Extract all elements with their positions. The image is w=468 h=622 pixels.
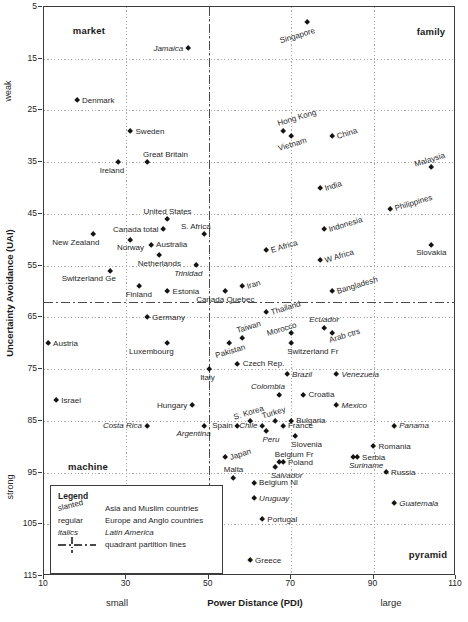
y-tick-label-45: 45 <box>15 208 37 218</box>
point-marker <box>428 164 434 170</box>
point-marker <box>206 366 212 372</box>
point-marker <box>263 428 269 434</box>
point-label-croatia: Croatia <box>309 390 335 399</box>
point-label-s-africa: S. Africa <box>181 222 211 231</box>
point-marker <box>280 423 286 429</box>
point-marker <box>387 206 393 212</box>
point-marker <box>115 159 121 165</box>
point-marker <box>272 464 278 470</box>
point-marker <box>300 392 306 398</box>
point-marker <box>383 469 389 475</box>
point-marker <box>370 444 376 450</box>
y-tick-label-75: 75 <box>15 363 37 373</box>
y-tick-105 <box>38 523 42 524</box>
y-tick-label-65: 65 <box>15 311 37 321</box>
x-tick-label-110: 110 <box>448 578 462 588</box>
y-gridline-65 <box>44 317 454 318</box>
point-marker <box>329 288 335 294</box>
point-marker <box>230 475 236 481</box>
point-label-denmark: Denmark <box>82 96 114 105</box>
point-marker <box>317 185 323 191</box>
point-label-morocco: Morocco <box>265 321 297 339</box>
point-marker <box>239 335 245 341</box>
x-tick-label-70: 70 <box>285 578 294 588</box>
point-label-france: France <box>288 421 313 430</box>
point-label-iran: Iran <box>245 278 261 291</box>
point-marker <box>276 392 282 398</box>
point-marker <box>222 288 228 294</box>
point-marker <box>222 454 228 460</box>
y-tick-label-25: 25 <box>15 104 37 114</box>
point-label-venezuela: Venezuela <box>342 370 380 379</box>
legend-key-italics: italics <box>58 528 96 537</box>
point-marker <box>164 340 170 346</box>
point-marker <box>90 231 96 237</box>
point-label-russia: Russia <box>391 468 415 477</box>
plot-area: market family machine pyramid Legend sla… <box>43 6 455 575</box>
point-marker <box>127 128 133 134</box>
point-label-brazil: Brazil <box>292 370 312 379</box>
point-label-australia: Australia <box>156 240 187 249</box>
y-tick-65 <box>38 316 42 317</box>
y-tick-label-5: 5 <box>15 1 37 11</box>
y-tick-label-115: 115 <box>15 570 37 580</box>
point-marker <box>107 268 113 274</box>
point-label-china: China <box>336 126 359 141</box>
point-label-switzerland-fr: Switzerland Fr <box>287 347 338 356</box>
point-marker <box>272 418 278 424</box>
y-gridline-45 <box>44 214 454 215</box>
point-marker <box>160 226 166 232</box>
y-tick-label-105: 105 <box>15 518 37 528</box>
point-marker <box>136 283 142 289</box>
point-label-w-africa: W Africa <box>324 247 355 264</box>
point-label-slovakia: Slovakia <box>416 248 446 257</box>
point-label-canada-quebec: Canada Quebec <box>196 295 254 304</box>
point-marker <box>428 242 434 248</box>
legend-box: Legend slanted Asia and Muslim countries… <box>50 485 223 574</box>
point-label-italy: Italy <box>200 373 215 382</box>
point-label-e-africa: E Africa <box>270 238 299 255</box>
point-marker <box>263 247 269 253</box>
y-tick-55 <box>38 265 42 266</box>
point-marker <box>292 433 298 439</box>
x-tick-label-10: 10 <box>38 578 47 588</box>
point-marker <box>74 97 80 103</box>
point-label-portugal: Portugal <box>267 515 297 524</box>
point-label-united-states: United States <box>144 207 192 216</box>
y-tick-95 <box>38 472 42 473</box>
point-marker <box>263 309 269 315</box>
point-label-great-britain: Great Britain <box>143 150 188 159</box>
legend-key-regular: regular <box>58 516 96 525</box>
x-gridline-90 <box>374 7 375 574</box>
point-label-mexico: Mexico <box>342 401 367 410</box>
legend-desc-latin-america: Latin America <box>105 528 154 537</box>
y-tick-label-55: 55 <box>15 260 37 270</box>
y-tick-45 <box>38 213 42 214</box>
y-tick-label-85: 85 <box>15 415 37 425</box>
point-marker <box>259 516 265 522</box>
point-marker <box>239 283 245 289</box>
point-marker <box>193 263 199 269</box>
quadrant-label-machine: machine <box>68 461 108 472</box>
point-label-peru: Peru <box>262 435 279 444</box>
y-tick-85 <box>38 420 42 421</box>
point-marker <box>247 557 253 563</box>
point-marker <box>53 397 59 403</box>
y-gridline-75 <box>44 369 454 370</box>
point-marker <box>144 423 150 429</box>
point-label-japan: Japan <box>229 446 252 461</box>
y-axis-weak-label: weak <box>3 80 13 101</box>
x-axis-small-label: small <box>106 597 128 608</box>
point-marker <box>251 480 257 486</box>
point-label-israel: Israel <box>61 396 81 405</box>
y-gridline-15 <box>44 59 454 60</box>
point-label-belgium-nl: Belgium Nl <box>259 478 298 487</box>
y-axis-strong-label: strong <box>5 474 15 499</box>
legend-row-slanted: slanted Asia and Muslim countries <box>58 504 222 516</box>
hofstede-culture-map: market family machine pyramid Legend sla… <box>0 0 468 622</box>
legend-row-regular: regular Europe and Anglo countries <box>58 516 222 528</box>
point-label-norway: Norway <box>117 243 144 252</box>
point-label-costa-rica: Costa Rica <box>103 421 142 430</box>
point-label-sweden: Sweden <box>136 127 165 136</box>
y-tick-75 <box>38 368 42 369</box>
